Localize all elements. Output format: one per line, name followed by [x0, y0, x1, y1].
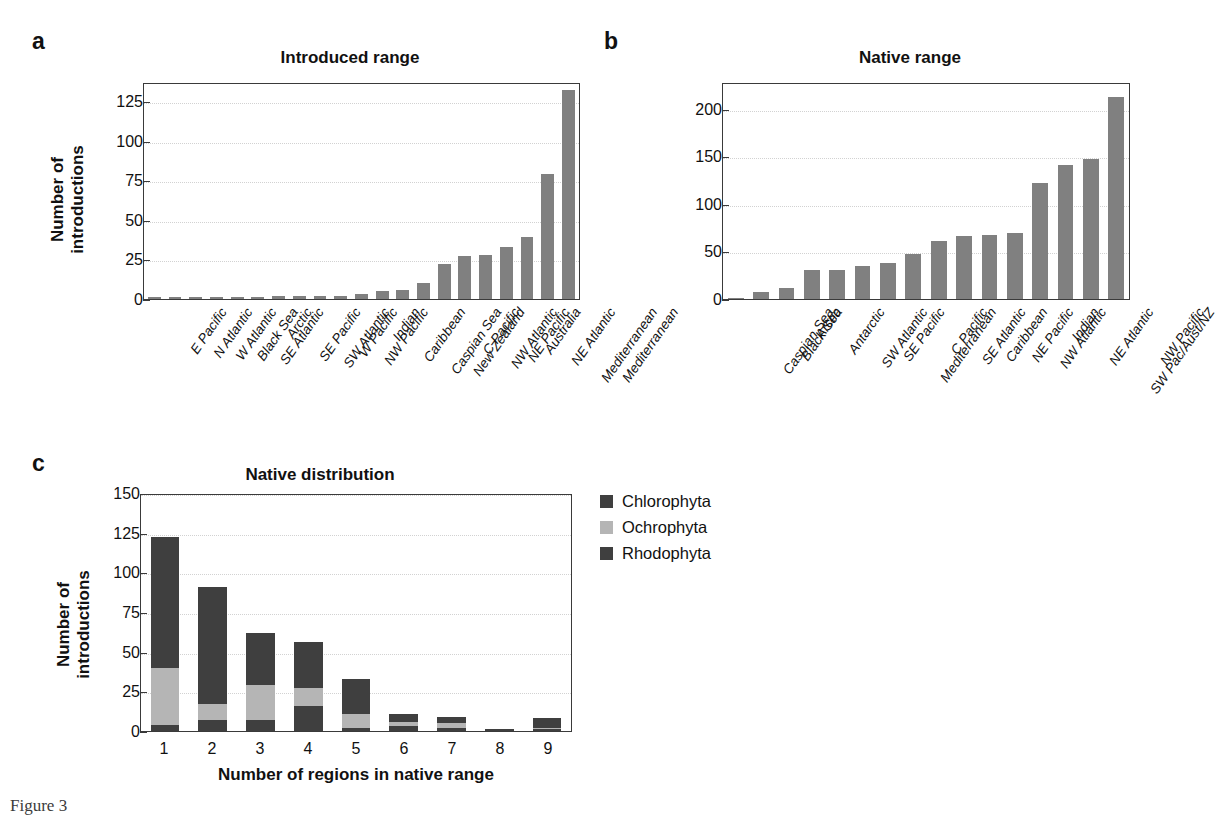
y-tick-label: 100	[116, 133, 143, 151]
bar[interactable]	[355, 294, 368, 299]
bar-slot	[1028, 84, 1053, 299]
bar[interactable]	[855, 266, 871, 299]
bar[interactable]	[396, 290, 409, 300]
bar[interactable]	[417, 283, 430, 299]
bar[interactable]	[804, 270, 820, 299]
bar-slot	[144, 84, 165, 299]
stacked-bar[interactable]	[246, 633, 275, 731]
bar[interactable]	[189, 297, 202, 299]
bar[interactable]	[880, 263, 896, 299]
stacked-bar[interactable]	[151, 537, 180, 731]
bar[interactable]	[169, 297, 182, 299]
bar[interactable]	[438, 264, 451, 299]
bar-segment-ochrophyta[interactable]	[198, 704, 227, 720]
legend-swatch-icon	[600, 547, 613, 560]
bar-segment-chlorophyta[interactable]	[485, 729, 514, 731]
y-tick-label: 25	[125, 251, 143, 269]
y-tick-label: 150	[113, 485, 140, 503]
bar-slot	[434, 84, 455, 299]
bar-group	[723, 84, 1129, 299]
stacked-bar[interactable]	[198, 587, 227, 731]
y-tick-mark	[140, 653, 147, 654]
bar-segment-rhodophyta[interactable]	[246, 633, 275, 685]
bar[interactable]	[829, 270, 845, 299]
bar[interactable]	[500, 247, 513, 299]
stacked-bar[interactable]	[485, 729, 514, 731]
bar-segment-chlorophyta[interactable]	[389, 726, 418, 731]
bar[interactable]	[931, 241, 947, 299]
bar[interactable]	[479, 255, 492, 299]
bar[interactable]	[521, 237, 534, 299]
bar-segment-rhodophyta[interactable]	[294, 642, 323, 688]
bar[interactable]	[779, 288, 795, 299]
panel-c-x-axis-title: Number of regions in native range	[140, 765, 572, 785]
bar[interactable]	[293, 296, 306, 299]
stacked-bar[interactable]	[437, 717, 466, 731]
y-tick-mark	[140, 692, 147, 693]
y-tick-mark	[722, 110, 729, 111]
panel-b-plot-area	[722, 83, 1130, 300]
bar[interactable]	[210, 297, 223, 299]
bar-segment-rhodophyta[interactable]	[151, 537, 180, 667]
bar-segment-ochrophyta[interactable]	[246, 685, 275, 720]
bar[interactable]	[1007, 233, 1023, 299]
bar[interactable]	[905, 254, 921, 299]
bar-segment-rhodophyta[interactable]	[389, 714, 418, 722]
bar-segment-chlorophyta[interactable]	[437, 728, 466, 731]
x-tick-label: 7	[448, 740, 457, 758]
panel-a-y-axis-title: Number of introductions	[48, 110, 87, 290]
bar[interactable]	[458, 256, 471, 299]
x-tick-label: 2	[208, 740, 217, 758]
legend-item[interactable]: Rhodophyta	[600, 540, 711, 566]
panel-c-letter: c	[32, 450, 45, 477]
bar[interactable]	[334, 296, 347, 299]
bar[interactable]	[251, 297, 264, 299]
bar[interactable]	[753, 292, 769, 299]
bar-segment-ochrophyta[interactable]	[294, 688, 323, 705]
stacked-bar[interactable]	[342, 679, 371, 731]
bar-segment-chlorophyta[interactable]	[246, 720, 275, 731]
bar[interactable]	[314, 296, 327, 299]
bar[interactable]	[1032, 183, 1048, 299]
bar[interactable]	[1108, 97, 1124, 299]
bar-segment-chlorophyta[interactable]	[198, 720, 227, 731]
bar-segment-chlorophyta[interactable]	[342, 728, 371, 731]
bar[interactable]	[1058, 165, 1074, 299]
bar-segment-chlorophyta[interactable]	[151, 725, 180, 731]
bar-segment-rhodophyta[interactable]	[533, 718, 562, 728]
panel-c-y-axis: 0255075100125150	[92, 494, 140, 732]
panel-a-y-axis: 0255075100125	[95, 83, 143, 300]
y-tick-label: 0	[713, 291, 722, 309]
bar[interactable]	[231, 297, 244, 299]
bar[interactable]	[272, 296, 285, 299]
bar-segment-ochrophyta[interactable]	[151, 668, 180, 725]
x-tick-label: 4	[304, 740, 313, 758]
stacked-bar[interactable]	[533, 718, 562, 731]
bar[interactable]	[562, 90, 575, 299]
bar-segment-chlorophyta[interactable]	[533, 729, 562, 731]
legend-swatch-icon	[600, 495, 613, 508]
bar-slot	[351, 84, 372, 299]
panel-c-y-axis-title: Number of introductions	[54, 525, 93, 725]
bar[interactable]	[728, 298, 744, 299]
bar-slot	[185, 84, 206, 299]
stacked-bar[interactable]	[389, 714, 418, 731]
bar-segment-chlorophyta[interactable]	[294, 706, 323, 731]
bar[interactable]	[1083, 159, 1099, 299]
y-tick-label: 125	[116, 93, 143, 111]
bar[interactable]	[148, 297, 161, 299]
bar[interactable]	[541, 174, 554, 299]
bar[interactable]	[956, 236, 972, 299]
legend-item[interactable]: Ochrophyta	[600, 514, 711, 540]
bar-segment-rhodophyta[interactable]	[198, 587, 227, 704]
legend-label: Ochrophyta	[622, 518, 707, 537]
stacked-bar[interactable]	[294, 642, 323, 731]
y-tick-label: 100	[695, 196, 722, 214]
bar[interactable]	[376, 291, 389, 299]
bar[interactable]	[982, 235, 998, 299]
y-tick-label: 50	[125, 212, 143, 230]
legend-item[interactable]: Chlorophyta	[600, 488, 711, 514]
bar-segment-ochrophyta[interactable]	[342, 714, 371, 728]
bar-segment-rhodophyta[interactable]	[342, 679, 371, 714]
bar-slot	[825, 84, 850, 299]
